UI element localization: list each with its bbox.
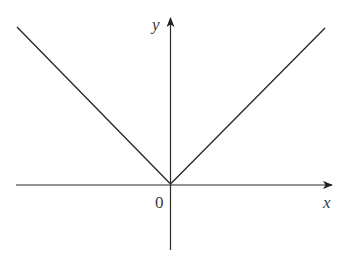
x-axis-label: x (322, 193, 331, 212)
y-axis-label: y (150, 15, 160, 34)
absolute-value-graph: y x 0 (0, 0, 351, 272)
origin-label: 0 (155, 193, 164, 212)
